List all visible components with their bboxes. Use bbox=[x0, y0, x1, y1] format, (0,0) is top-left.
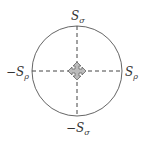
label-left: −Sρ bbox=[6, 66, 29, 81]
label-top: Sσ bbox=[71, 10, 85, 25]
label-bottom: −Sσ bbox=[66, 122, 90, 137]
four-way-arrow-icon bbox=[68, 62, 86, 80]
label-right: Sρ bbox=[125, 66, 138, 81]
